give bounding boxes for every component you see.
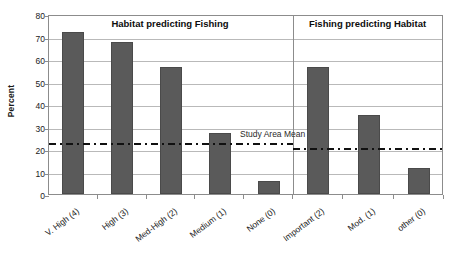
x-axis-category-label: Med-High (2) — [122, 206, 179, 253]
y-axis-tick-mark — [45, 39, 49, 40]
x-axis-category-label: Medium (1) — [171, 206, 228, 253]
y-axis-tick-label: 70 — [36, 34, 45, 43]
y-axis-tick-mark — [45, 151, 49, 152]
bar — [111, 42, 133, 194]
x-axis-tick-mark — [243, 195, 244, 199]
y-axis-tick-label: 20 — [36, 147, 45, 156]
panel-title-right: Fishing predicting Habitat — [292, 18, 443, 29]
gridline — [49, 106, 442, 107]
y-axis-tick-mark — [45, 106, 49, 107]
y-axis-tick-label: 40 — [36, 102, 45, 111]
bar-chart: Percent 01020304050607080 V. High (4)Hig… — [0, 0, 457, 264]
x-axis-category-label: High (3) — [73, 206, 130, 253]
x-axis-category-label: None (0) — [219, 206, 276, 253]
gridline — [49, 61, 442, 62]
x-axis-tick-mark — [97, 195, 98, 199]
y-axis-tick-mark — [45, 174, 49, 175]
y-axis-tick-mark — [45, 196, 49, 197]
y-axis-tick-label: 60 — [36, 57, 45, 66]
y-axis-tick-label: 10 — [36, 169, 45, 178]
bar — [62, 32, 84, 194]
x-axis-tick-mark — [194, 195, 195, 199]
x-axis-category-label: other (0) — [370, 206, 427, 253]
study-area-mean-label: Study Area Mean — [240, 129, 305, 139]
y-axis-tick-mark — [45, 84, 49, 85]
x-axis-category-label: Mod. (1) — [319, 206, 376, 253]
y-axis-tick-mark — [45, 16, 49, 17]
y-axis-tick-label: 50 — [36, 79, 45, 88]
study-area-mean-line — [49, 143, 293, 145]
x-axis-tick-mark — [342, 195, 343, 199]
gridline — [49, 174, 442, 175]
bar — [408, 168, 430, 194]
x-axis-tick-mark — [443, 195, 444, 199]
y-axis-tick-mark — [45, 61, 49, 62]
study-area-mean-line — [293, 148, 444, 150]
gridline — [49, 39, 442, 40]
gridline — [49, 151, 442, 152]
gridline — [49, 84, 442, 85]
panel-divider — [293, 16, 294, 194]
bar — [307, 67, 329, 194]
bar — [258, 181, 280, 195]
x-axis-tick-mark — [393, 195, 394, 199]
y-axis-title: Percent — [6, 71, 16, 131]
plot-area: 01020304050607080 — [48, 15, 443, 195]
x-axis-tick-mark — [292, 195, 293, 199]
y-axis-tick-mark — [45, 129, 49, 130]
x-axis-category-label: Important (2) — [269, 206, 326, 253]
bar — [160, 67, 182, 194]
y-axis-tick-label: 80 — [36, 12, 45, 21]
x-axis-tick-mark — [146, 195, 147, 199]
panel-title-left: Habitat predicting Fishing — [48, 18, 292, 29]
y-axis-tick-label: 30 — [36, 124, 45, 133]
bar — [358, 115, 380, 194]
